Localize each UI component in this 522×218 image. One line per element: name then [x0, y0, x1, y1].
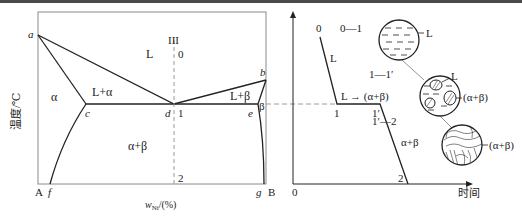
point-d: d: [165, 107, 171, 119]
x-axis-label: wNi/(%): [145, 199, 176, 212]
solvus-alpha-line: [50, 104, 86, 184]
alloy-point-0: 0: [178, 48, 184, 60]
point-b: b: [260, 66, 266, 78]
region-alpha: α: [51, 90, 58, 104]
point-c: c: [85, 107, 90, 119]
stage-0-1-range: 0—1: [340, 22, 362, 34]
solvus-beta-line: [258, 104, 264, 184]
y-axis-label: 温度/℃: [9, 93, 22, 130]
origin-label: 0: [292, 186, 298, 198]
point-a: a: [28, 28, 34, 40]
region-liquid: L: [146, 47, 153, 61]
curve-point-0: 0: [316, 22, 322, 34]
microstructure-eutectic-forming: [420, 76, 462, 116]
region-l-beta: L+β: [230, 89, 250, 103]
stage-1-1prime-label-l: L: [451, 70, 458, 82]
stage-0-1-label: L: [426, 27, 433, 39]
alloy-point-2: 2: [178, 172, 184, 184]
time-axis-label: 时间: [458, 187, 480, 199]
alloy-iii-label: III: [168, 34, 179, 46]
segment-liquid-label: L: [330, 52, 337, 64]
component-b-label: B: [268, 186, 275, 198]
stage-1prime-2-label: (α+β): [489, 139, 514, 152]
region-beta: β: [259, 100, 265, 112]
alloy-point-1: 1: [178, 107, 184, 119]
segment-reaction-label: L → (α+β): [341, 90, 389, 103]
segment-solid-label: α+β: [401, 136, 419, 148]
region-alpha-beta: α+β: [128, 139, 147, 153]
point-g: g: [256, 186, 262, 198]
stage-1prime-2-range: 1′—2: [372, 115, 396, 127]
point-f: f: [48, 186, 53, 198]
curve-point-2: 2: [398, 172, 404, 184]
phase-diagram: a b c d e f g A B L α L+α L+β β α+β III …: [9, 12, 337, 212]
point-e: e: [248, 107, 253, 119]
stage-1-1prime-range: 1—1′: [369, 68, 393, 80]
phase-diagram-figure: a b c d e f g A B L α L+α L+β β α+β III …: [0, 0, 522, 218]
microstructure-eutectic: [442, 125, 488, 166]
component-a-label: A: [35, 186, 43, 198]
region-l-alpha: L+α: [92, 85, 113, 99]
microstructure-liquid: [379, 20, 424, 60]
curve-point-1: 1: [334, 107, 340, 119]
stage-1-1prime-label-eutectic: (α+β): [463, 91, 488, 104]
solidus-alpha-line: [38, 35, 86, 104]
